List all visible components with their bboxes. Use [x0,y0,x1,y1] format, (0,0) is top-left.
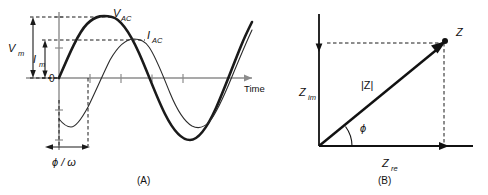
zim-label-main: Z [298,86,307,98]
phase-shift-label: ϕ / ω [52,156,76,168]
z-magnitude-label: |Z| [361,79,373,91]
im-label-sub: m [39,60,45,69]
time-axis-label: Time [244,83,265,94]
vm-bracket [30,17,36,78]
amplitude-axis [55,12,63,150]
panel-a-caption: (A) [137,175,150,186]
figure-root: V m I m 0 ϕ / ω [0,0,488,195]
origin-label: 0 [49,73,55,84]
z-point-label: Z [455,26,464,38]
zre-label-sub: re [391,164,398,173]
figure-svg: V m I m 0 ϕ / ω [0,0,488,195]
vm-label-sub: m [18,49,24,58]
phi-label: ϕ [360,122,366,134]
iac-label-sub: AC [151,36,163,45]
zim-arrow [316,44,323,53]
im-label-main: I [33,53,36,65]
phase-shift-marker [45,78,90,150]
iac-label-main: I [147,29,150,41]
panel-a: V m I m 0 ϕ / ω [8,7,265,186]
z-vector [319,41,446,146]
vac-label-sub: AC [120,14,132,23]
im-bracket [42,40,47,78]
vm-label-main: V [8,42,17,54]
phi-arc [346,127,353,147]
zre-label-main: Z [381,157,390,169]
panel-b-caption: (B) [378,175,391,186]
zim-label-sub: im [308,93,316,102]
z-point-marker [442,38,448,44]
zre-arrow [439,142,449,150]
panel-b: Z im Z re |Z| ϕ Z (B) [298,14,473,186]
